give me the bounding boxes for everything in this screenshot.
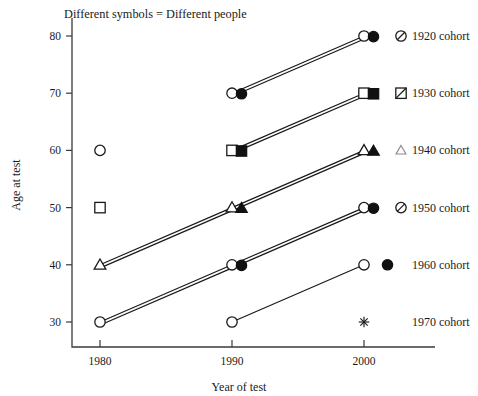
axis-spines (72, 18, 435, 347)
datapoint-1950-cohort-2000-50 (368, 203, 378, 213)
y-tick-label: 30 (50, 316, 62, 328)
datapoint-1940-cohort-1980-40 (94, 259, 106, 269)
x-tick-label: 2000 (353, 355, 376, 367)
x-tick-label: 1980 (89, 355, 112, 367)
legend-symbol-1960-cohort-filled-circle (382, 260, 392, 270)
datapoint-1950-cohort-1980-30 (95, 317, 105, 327)
datapoint-1950-cohort-1990-40 (236, 260, 246, 270)
y-tick-label: 50 (50, 202, 62, 214)
legend-symbol-1950-cohort-slashed-circle (396, 202, 406, 212)
datapoint-1930-cohort-2000-70 (368, 89, 378, 99)
y-tick-label: 60 (50, 144, 62, 156)
chart-annotation: Different symbols = Different people (64, 7, 247, 21)
series-line-1930-cohort (235, 95, 367, 152)
datapoint-1920-cohort-2000-80 (368, 31, 378, 41)
datapoint-1970-cohort-2000-30 (359, 317, 369, 327)
y-tick-label: 80 (50, 30, 62, 42)
x-tick-label: 1990 (221, 355, 244, 367)
datapoint-1940-cohort-1990-50 (226, 202, 238, 212)
datapoint-1950-cohort-1990-40 (227, 260, 237, 270)
series-line-1920-cohort (235, 38, 367, 95)
chart-page: 304050607080198019902000Year of testAge … (0, 0, 478, 396)
legend-label-1950-cohort: 1950 cohort (412, 201, 470, 215)
datapoint-1940-cohort-2000-60 (368, 145, 380, 155)
series-line-1930-cohort (232, 93, 364, 150)
datapoint-1920-cohort-1980-60 (95, 145, 105, 155)
datapoint-1930-cohort-1990-60 (227, 145, 237, 155)
y-tick-label: 70 (50, 87, 62, 99)
datapoint-1950-cohort-2000-50 (359, 202, 369, 212)
series-line-1920-cohort (232, 36, 364, 93)
datapoint-1930-cohort-1990-60 (236, 146, 246, 156)
datapoint-1940-cohort-2000-60 (358, 145, 370, 155)
cohort-age-chart: 304050607080198019902000Year of testAge … (0, 0, 478, 396)
legend-label-1960-cohort: 1960 cohort (412, 258, 470, 272)
datapoint-1930-cohort-1980-50 (95, 202, 105, 212)
datapoint-1940-cohort-1990-50 (236, 202, 248, 212)
datapoint-1930-cohort-2000-70 (359, 88, 369, 98)
legend-label-1940-cohort: 1940 cohort (412, 143, 470, 157)
legend-label-1930-cohort: 1930 cohort (412, 86, 470, 100)
legend-label-1920-cohort: 1920 cohort (412, 29, 470, 43)
legend-label-1970-cohort: 1970 cohort (412, 315, 470, 329)
datapoint-1960-cohort-2000-40 (359, 260, 369, 270)
datapoint-1960-cohort-1990-30 (227, 317, 237, 327)
legend-symbol-1930-cohort-slashed-square (396, 88, 406, 98)
datapoint-1920-cohort-1990-70 (236, 89, 246, 99)
y-tick-label: 40 (50, 259, 62, 271)
datapoint-1920-cohort-1990-70 (227, 88, 237, 98)
datapoint-1920-cohort-2000-80 (359, 31, 369, 41)
legend-symbol-1920-cohort-slashed-circle (396, 31, 406, 41)
legend-symbol-1940-cohort-light-triangle (396, 145, 406, 154)
x-axis-title: Year of test (212, 380, 267, 394)
series-line-1960-cohort (232, 265, 364, 322)
y-axis-title: Age at test (9, 159, 23, 211)
